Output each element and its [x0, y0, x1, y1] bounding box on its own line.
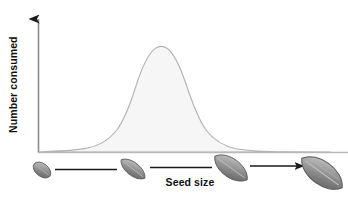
seed-connectors-group [55, 166, 304, 170]
figure-canvas: Number consumed Seed size [0, 0, 348, 202]
bell-curve-group [38, 46, 330, 152]
seed-2 [117, 155, 149, 184]
seed-row-group [30, 149, 348, 197]
seed-3 [209, 149, 252, 188]
bell-curve-area [38, 46, 330, 152]
x-axis-label: Seed size [166, 176, 215, 188]
seed-size-distribution-figure: Number consumed Seed size [0, 0, 348, 202]
y-axis-label: Number consumed [7, 36, 19, 133]
seed-4 [295, 149, 348, 197]
seed-1 [30, 159, 54, 181]
